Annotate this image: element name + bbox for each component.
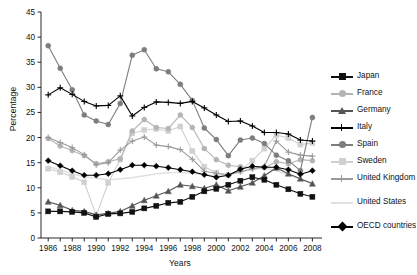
svg-text:30: 30: [26, 83, 36, 92]
legend-item-japan[interactable]: Japan: [331, 70, 417, 85]
svg-text:2000: 2000: [207, 244, 226, 253]
svg-text:1992: 1992: [111, 244, 130, 253]
chart-legend: JapanFranceGermanyItalySpainSwedenUnited…: [331, 70, 417, 244]
legend-item-spain[interactable]: Spain: [331, 138, 417, 153]
legend-label: Germany: [357, 104, 391, 115]
legend-swatch-plus-icon: [331, 172, 353, 185]
svg-text:1988: 1988: [63, 244, 82, 253]
svg-text:1990: 1990: [87, 244, 106, 253]
legend-label: Japan: [357, 70, 379, 81]
legend-label: Sweden: [357, 155, 387, 166]
x-axis-label: Years: [120, 258, 240, 268]
svg-text:20: 20: [26, 134, 36, 143]
svg-text:25: 25: [26, 108, 36, 117]
legend-swatch-none-icon: [331, 196, 353, 209]
legend-swatch-circle-icon: [331, 87, 353, 100]
legend-item-france[interactable]: France: [331, 87, 417, 102]
svg-text:2004: 2004: [255, 244, 274, 253]
svg-text:35: 35: [26, 58, 36, 67]
legend-label: Spain: [357, 138, 378, 149]
svg-text:1994: 1994: [135, 244, 154, 253]
legend-item-united-kingdom[interactable]: United Kingdom: [331, 172, 417, 194]
legend-item-oecd-countries[interactable]: OECD countries: [331, 220, 417, 242]
y-axis-label: Percentage: [8, 79, 18, 139]
legend-swatch-square-icon: [331, 155, 353, 168]
legend-label: Italy: [357, 121, 372, 132]
legend-label: United States: [357, 196, 406, 207]
svg-text:15: 15: [26, 159, 36, 168]
svg-text:2002: 2002: [231, 244, 250, 253]
legend-swatch-plus-icon: [331, 121, 353, 134]
legend-item-germany[interactable]: Germany: [331, 104, 417, 119]
svg-text:10: 10: [26, 184, 36, 193]
svg-text:45: 45: [26, 8, 36, 17]
legend-label: OECD countries: [357, 220, 416, 231]
svg-text:1998: 1998: [183, 244, 202, 253]
legend-swatch-triangle-icon: [331, 104, 353, 117]
legend-swatch-circle-icon: [331, 138, 353, 151]
svg-text:2006: 2006: [279, 244, 298, 253]
svg-text:1996: 1996: [159, 244, 178, 253]
svg-text:40: 40: [26, 33, 36, 42]
legend-swatch-diamond-icon: [331, 220, 353, 233]
svg-text:5: 5: [30, 209, 35, 218]
chart-figure: 0510152025303540451986198819901992199419…: [0, 0, 417, 275]
svg-text:0: 0: [30, 234, 35, 243]
svg-text:1986: 1986: [39, 244, 58, 253]
legend-item-united-states[interactable]: United States: [331, 196, 417, 218]
legend-label: United Kingdom: [357, 172, 415, 183]
legend-item-italy[interactable]: Italy: [331, 121, 417, 136]
svg-text:2008: 2008: [303, 244, 322, 253]
legend-swatch-square-icon: [331, 70, 353, 83]
legend-item-sweden[interactable]: Sweden: [331, 155, 417, 170]
legend-label: France: [357, 87, 382, 98]
